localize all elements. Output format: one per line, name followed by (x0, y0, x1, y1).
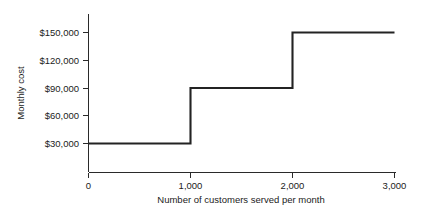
y-tick-label-30000: $30,000 (45, 138, 79, 149)
y-tick-label-150000: $150,000 (39, 27, 79, 38)
step-cost-series (89, 33, 395, 144)
x-tick-label-3000: 3,000 (383, 180, 407, 191)
y-axis-title: Monthly cost (15, 66, 26, 120)
y-tick-label-120000: $120,000 (39, 55, 79, 66)
y-tick-label-60000: $60,000 (45, 110, 79, 121)
x-tick-label-1000: 1,000 (179, 180, 203, 191)
chart-plot-area: $150,000 $120,000 $90,000 $60,000 $30,00… (0, 0, 434, 210)
step-cost-chart: $150,000 $120,000 $90,000 $60,000 $30,00… (0, 0, 434, 210)
x-tick-label-2000: 2,000 (281, 180, 305, 191)
y-tick-label-90000: $90,000 (45, 83, 79, 94)
x-tick-label-0: 0 (86, 180, 91, 191)
x-axis-title: Number of customers served per month (157, 194, 324, 205)
